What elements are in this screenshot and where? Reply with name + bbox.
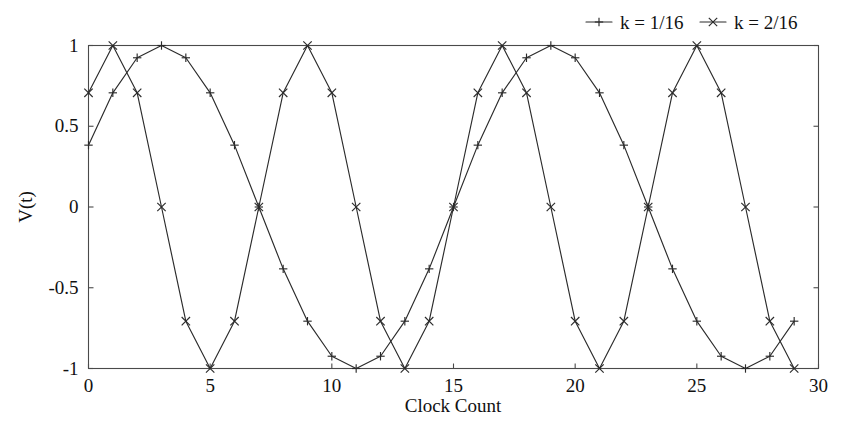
series-2 (84, 41, 798, 372)
plus-marker (522, 54, 530, 62)
plus-marker (133, 54, 141, 62)
cross-marker (474, 89, 482, 97)
x-tick-label: 15 (444, 375, 463, 396)
plus-marker (717, 352, 725, 360)
y-tick-label: -0.5 (48, 277, 78, 298)
x-tick-label: 0 (84, 375, 94, 396)
plus-marker (206, 89, 214, 97)
cross-marker (717, 89, 725, 97)
legend-label: k = 1/16 (620, 12, 684, 33)
plus-marker (182, 54, 190, 62)
x-axis-label: Clock Count (405, 395, 502, 416)
series-line (89, 46, 795, 369)
y-tick-label: 0 (69, 196, 79, 217)
plus-marker (693, 317, 701, 325)
x-tick-label: 30 (809, 375, 828, 396)
x-tick-label: 10 (322, 375, 341, 396)
cross-marker (668, 89, 676, 97)
plus-marker (157, 41, 165, 49)
cross-marker (182, 317, 190, 325)
cross-marker (376, 317, 384, 325)
plus-marker (352, 364, 360, 372)
plus-marker (303, 317, 311, 325)
cross-marker (766, 317, 774, 325)
plus-marker (595, 89, 603, 97)
cross-marker (328, 89, 336, 97)
plus-marker (741, 364, 749, 372)
plus-marker (595, 18, 603, 26)
cross-marker (279, 89, 287, 97)
plus-marker (376, 352, 384, 360)
cross-marker (522, 89, 530, 97)
plus-marker (425, 265, 433, 273)
x-tick-label: 25 (687, 375, 706, 396)
cross-marker (133, 89, 141, 97)
y-tick-label: 0.5 (55, 115, 79, 136)
plus-marker (328, 352, 336, 360)
chart-figure: 051015202530 -1-0.500.51 Clock Count V(t… (0, 0, 849, 430)
legend-entry-2: k = 2/16 (700, 12, 798, 33)
y-axis-ticks: -1-0.500.51 (48, 35, 818, 379)
plus-marker (790, 317, 798, 325)
series-line (89, 46, 795, 369)
cross-marker (425, 317, 433, 325)
y-tick-label: -1 (63, 358, 79, 379)
plus-marker (84, 141, 92, 149)
cross-marker (230, 317, 238, 325)
cross-marker (157, 203, 165, 211)
plus-marker (279, 265, 287, 273)
cross-marker (571, 317, 579, 325)
x-tick-label: 20 (566, 375, 585, 396)
legend-label: k = 2/16 (734, 12, 798, 33)
plus-marker (668, 265, 676, 273)
plus-marker (109, 89, 117, 97)
y-tick-label: 1 (69, 35, 79, 56)
plus-marker (547, 41, 555, 49)
plus-marker (498, 89, 506, 97)
cross-marker (620, 317, 628, 325)
legend-entry-1: k = 1/16 (586, 12, 684, 33)
cross-marker (352, 203, 360, 211)
cross-marker (741, 203, 749, 211)
cross-marker (547, 203, 555, 211)
line-chart: 051015202530 -1-0.500.51 Clock Count V(t… (0, 0, 849, 430)
plus-marker (571, 54, 579, 62)
data-series-layer (84, 41, 798, 372)
plus-marker (230, 141, 238, 149)
x-tick-label: 5 (205, 375, 215, 396)
y-axis-label: V(t) (15, 191, 37, 223)
plus-marker (766, 352, 774, 360)
plus-marker (620, 141, 628, 149)
plus-marker (474, 141, 482, 149)
chart-legend: k = 1/16k = 2/16 (586, 12, 798, 33)
plus-marker (401, 317, 409, 325)
series-1 (84, 41, 798, 372)
